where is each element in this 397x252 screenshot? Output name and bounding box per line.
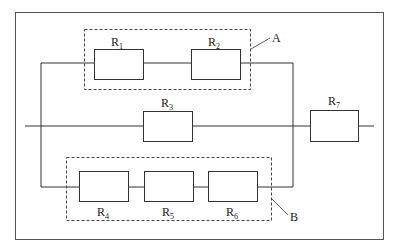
wire-top-left — [41, 63, 94, 126]
label-group-b: B — [290, 210, 298, 224]
resistor-r6 — [209, 172, 258, 202]
resistor-r2 — [192, 50, 241, 80]
resistor-r3 — [144, 112, 193, 142]
wire-bottom-left — [41, 126, 79, 187]
resistor-r1 — [95, 50, 144, 80]
leader-line-b — [271, 198, 288, 215]
label-r1: R1 — [111, 35, 123, 51]
resistor-r5 — [145, 172, 194, 202]
label-r3: R3 — [161, 96, 173, 112]
resistor-r7 — [311, 111, 359, 142]
circuit-diagram: R1 R2 R3 R4 R5 R6 R7 A B — [0, 0, 397, 252]
label-r6: R6 — [226, 205, 238, 221]
wire-top-right — [241, 63, 293, 187]
label-r4: R4 — [97, 205, 109, 221]
label-group-a: A — [272, 31, 281, 45]
label-r7: R7 — [328, 94, 340, 110]
resistor-r4 — [80, 172, 129, 202]
label-r2: R2 — [208, 35, 220, 51]
leader-line-a — [251, 38, 270, 49]
label-r5: R5 — [162, 205, 174, 221]
